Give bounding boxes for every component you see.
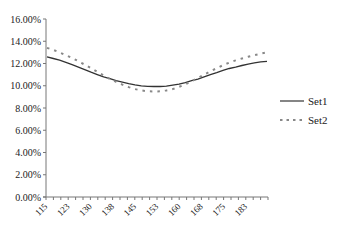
y-tick-label: 4.00%: [15, 147, 41, 158]
series-line-set2: [47, 48, 267, 92]
series-lines: [47, 48, 267, 92]
x-tick-label: 130: [77, 201, 94, 218]
x-tick-label: 175: [210, 201, 227, 218]
y-tick-label: 2.00%: [15, 169, 41, 180]
y-tick-label: 6.00%: [15, 125, 41, 136]
x-tick-label: 183: [233, 201, 250, 218]
x-axis: 115123130138145153160168175183: [33, 197, 268, 218]
legend-item-set1: Set1: [280, 95, 328, 107]
x-tick-label: 115: [33, 201, 50, 218]
x-tick-label: 145: [122, 201, 139, 218]
y-tick-label: 12.00%: [10, 58, 41, 69]
y-tick-label: 14.00%: [10, 36, 41, 47]
line-chart: 0.00%2.00%4.00%6.00%8.00%10.00%12.00%14.…: [0, 0, 338, 233]
x-tick-label: 160: [166, 201, 183, 218]
legend-label-set2: Set2: [308, 114, 328, 126]
legend-item-set2: Set2: [280, 114, 328, 126]
x-tick-label: 168: [188, 201, 205, 218]
legend: Set1 Set2: [280, 95, 328, 126]
legend-label-set1: Set1: [308, 95, 328, 107]
x-tick-label: 123: [55, 201, 72, 218]
y-tick-label: 16.00%: [10, 14, 41, 25]
x-tick-label: 138: [99, 201, 116, 218]
x-tick-label: 153: [144, 201, 161, 218]
y-axis: 0.00%2.00%4.00%6.00%8.00%10.00%12.00%14.…: [10, 14, 46, 203]
y-tick-label: 0.00%: [15, 192, 41, 203]
y-tick-label: 8.00%: [15, 103, 41, 114]
y-tick-label: 10.00%: [10, 80, 41, 91]
